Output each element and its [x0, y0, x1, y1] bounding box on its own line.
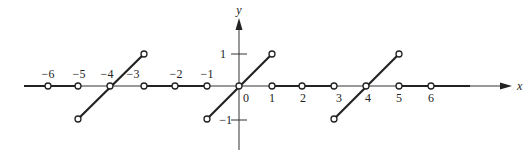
x-tick-label: 5	[396, 91, 402, 105]
y-axis-arrow-icon	[236, 18, 243, 30]
x-tick-label: −2	[170, 67, 183, 81]
x-axis-arrow-icon	[500, 83, 512, 90]
open-point	[269, 83, 275, 89]
y-tick-label: −1	[219, 113, 232, 127]
y-axis-label: y	[235, 3, 242, 17]
x-tick-label: −6	[42, 67, 55, 81]
open-point	[363, 83, 369, 89]
y-tick-label: 1	[220, 47, 226, 61]
open-point	[396, 51, 402, 57]
open-point	[107, 83, 113, 89]
x-tick-label: 2	[300, 91, 306, 105]
open-point	[204, 116, 210, 122]
x-tick-label: −1	[201, 67, 214, 81]
x-tick-label: −5	[73, 67, 86, 81]
open-point	[141, 51, 147, 57]
x-tick-label: 0	[243, 91, 249, 105]
open-point	[331, 83, 337, 89]
open-point	[236, 83, 242, 89]
x-tick-label: 6	[428, 91, 434, 105]
open-point	[299, 83, 305, 89]
open-point	[204, 83, 210, 89]
x-axis-label: x	[516, 79, 523, 93]
open-point	[428, 83, 434, 89]
function-graph: −6 −5 −4 −3 −2 −1 0 1 2 3 4 5 6 1 −1 y x	[0, 0, 530, 159]
x-tick-label: 4	[365, 91, 371, 105]
open-point	[172, 83, 178, 89]
x-tick-label: −3	[127, 67, 140, 81]
open-point	[45, 83, 51, 89]
x-tick-label: 3	[336, 91, 342, 105]
open-point	[396, 83, 402, 89]
open-point	[75, 116, 81, 122]
open-point	[141, 83, 147, 89]
x-tick-label: −4	[101, 67, 114, 81]
open-point	[269, 51, 275, 57]
x-tick-label: 1	[269, 91, 275, 105]
open-point	[75, 83, 81, 89]
open-point	[331, 116, 337, 122]
